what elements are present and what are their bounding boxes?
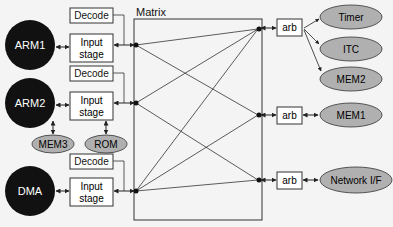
matrix-connections [136,29,258,191]
svg-text:ITC: ITC [343,44,359,55]
svg-text:stage: stage [79,107,104,118]
master-dma: DMA [5,166,55,216]
slave-itc: ITC [320,37,382,61]
slave-timer: Timer [320,5,382,29]
svg-text:Decode: Decode [74,10,109,21]
svg-text:Decode: Decode [74,156,109,167]
svg-text:ARM2: ARM2 [15,97,46,109]
svg-text:ARM1: ARM1 [15,39,46,51]
svg-text:Network I/F: Network I/F [330,175,381,186]
bus-matrix-diagram: Matrix ARM1 ARM2 DMA Decode Decode [0,0,393,227]
memory-rom: ROM [85,135,127,153]
master-arm1: ARM1 [5,20,55,70]
matrix-label: Matrix [136,6,166,18]
svg-text:Input: Input [80,181,102,192]
svg-text:arb: arb [282,110,297,121]
master-arm2: ARM2 [5,78,55,128]
svg-text:stage: stage [79,193,104,204]
svg-text:ROM: ROM [94,139,117,150]
slave-mem2: MEM2 [320,67,382,91]
svg-text:MEM2: MEM2 [337,74,366,85]
memory-mem3: MEM3 [32,135,74,153]
arbiter-3: arb [277,172,302,189]
arbiter-2: arb [277,107,302,124]
svg-text:Decode: Decode [74,68,109,79]
input-stage-1: Input stage [70,34,113,62]
svg-text:DMA: DMA [18,185,43,197]
arbiter-1: arb [277,19,302,36]
svg-text:arb: arb [282,22,297,33]
svg-text:stage: stage [79,49,104,60]
svg-text:MEM3: MEM3 [39,139,68,150]
svg-text:Timer: Timer [338,12,364,23]
slave-mem1: MEM1 [320,103,382,127]
slave-network-if: Network I/F [320,167,392,193]
svg-text:arb: arb [282,175,297,186]
svg-text:MEM1: MEM1 [337,110,366,121]
input-stage-3: Input stage [70,178,113,206]
svg-text:Input: Input [80,95,102,106]
input-stage-2: Input stage [70,92,113,120]
svg-text:Input: Input [80,37,102,48]
